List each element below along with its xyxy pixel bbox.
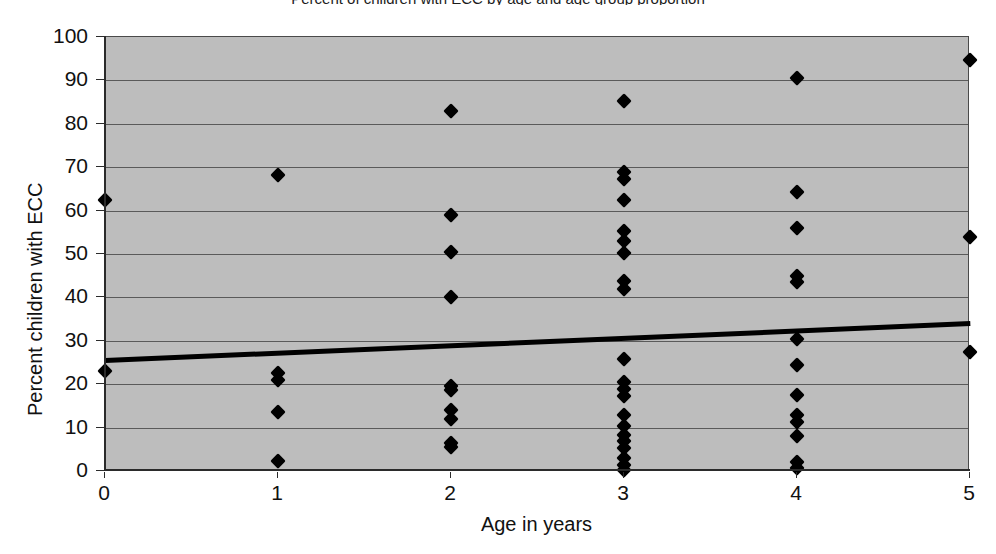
scatter-point bbox=[962, 229, 978, 245]
x-axis-tick-mark bbox=[796, 472, 797, 478]
x-axis-tick-label: 5 bbox=[949, 482, 989, 503]
gridline bbox=[105, 254, 968, 255]
y-axis-tick-mark bbox=[96, 253, 104, 254]
chart-title: Percent of children with ECC by age and … bbox=[0, 0, 996, 5]
x-axis-tick-mark bbox=[104, 472, 105, 478]
x-axis-tick-label: 4 bbox=[776, 482, 816, 503]
x-axis-tick-mark bbox=[277, 472, 278, 478]
x-axis-tick-mark bbox=[623, 472, 624, 478]
y-axis-tick-label: 10 bbox=[16, 416, 88, 437]
y-axis-line bbox=[104, 36, 106, 471]
scatter-point bbox=[789, 70, 805, 86]
scatter-point bbox=[789, 388, 805, 404]
y-axis-tick-label: 80 bbox=[16, 112, 88, 133]
y-axis-tick-mark bbox=[96, 427, 104, 428]
x-axis-tick-mark bbox=[969, 472, 970, 478]
y-axis-tick-mark bbox=[96, 123, 104, 124]
scatter-point bbox=[443, 103, 459, 119]
scatter-point bbox=[443, 289, 459, 305]
scatter-point bbox=[443, 411, 459, 427]
y-axis-tick-mark bbox=[96, 36, 104, 37]
x-axis-tick-label: 3 bbox=[603, 482, 643, 503]
y-axis-tick-mark bbox=[96, 79, 104, 80]
scatter-point bbox=[616, 245, 632, 261]
y-axis-tick-mark bbox=[96, 296, 104, 297]
scatter-point bbox=[270, 454, 286, 470]
scatter-point bbox=[443, 207, 459, 223]
y-axis-tick-label: 90 bbox=[16, 68, 88, 89]
y-axis-tick-mark bbox=[96, 166, 104, 167]
scatter-point bbox=[789, 357, 805, 373]
gridline bbox=[105, 80, 968, 81]
y-axis-tick-label: 40 bbox=[16, 285, 88, 306]
y-axis-tick-label: 30 bbox=[16, 329, 88, 350]
scatter-point bbox=[616, 93, 632, 109]
scatter-point bbox=[616, 192, 632, 208]
x-axis-line bbox=[104, 469, 970, 471]
gridline bbox=[105, 124, 968, 125]
scatter-point bbox=[270, 167, 286, 183]
x-axis-tick-label: 1 bbox=[257, 482, 297, 503]
gridline bbox=[105, 384, 968, 385]
scatter-point bbox=[789, 428, 805, 444]
scatter-point bbox=[789, 185, 805, 201]
scatter-point bbox=[962, 53, 978, 69]
x-axis-title: Age in years bbox=[104, 513, 969, 536]
scatter-point bbox=[270, 405, 286, 421]
x-axis-tick-label: 0 bbox=[84, 482, 124, 503]
x-axis-tick-mark bbox=[450, 472, 451, 478]
y-axis-tick-label: 100 bbox=[16, 25, 88, 46]
scatter-point bbox=[616, 351, 632, 367]
y-axis-tick-mark bbox=[96, 383, 104, 384]
scatter-point bbox=[443, 244, 459, 260]
gridline bbox=[105, 211, 968, 212]
x-axis-tick-label: 2 bbox=[430, 482, 470, 503]
chart-figure: Percent of children with ECC by age and … bbox=[0, 0, 996, 554]
scatter-point bbox=[962, 344, 978, 360]
plot-area bbox=[104, 36, 969, 470]
y-axis-tick-label: 20 bbox=[16, 372, 88, 393]
y-axis-tick-mark bbox=[96, 340, 104, 341]
y-axis-tick-label: 60 bbox=[16, 199, 88, 220]
gridline bbox=[105, 297, 968, 298]
y-axis-tick-label: 50 bbox=[16, 242, 88, 263]
scatter-point bbox=[789, 220, 805, 236]
y-axis-tick-label: 70 bbox=[16, 155, 88, 176]
y-axis-tick-label: 0 bbox=[16, 459, 88, 480]
y-axis-tick-mark bbox=[96, 210, 104, 211]
trendline bbox=[105, 321, 970, 363]
gridline bbox=[105, 167, 968, 168]
gridline bbox=[105, 428, 968, 429]
y-axis-tick-mark bbox=[96, 470, 104, 471]
